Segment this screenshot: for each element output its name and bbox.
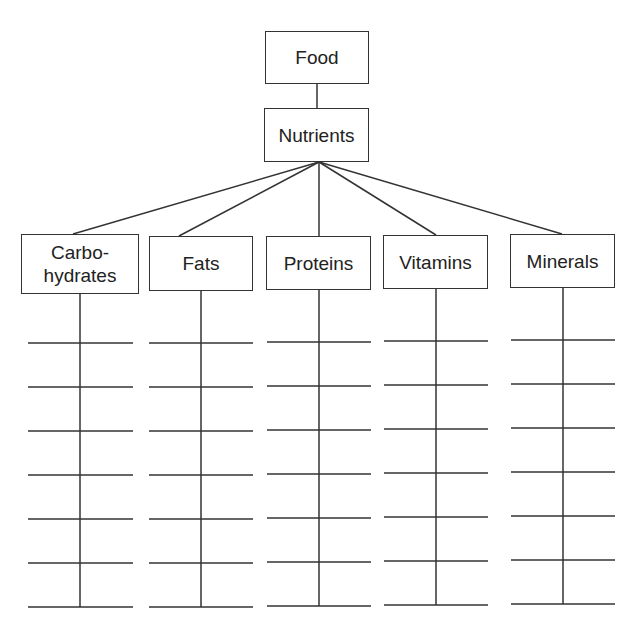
category-label: Proteins xyxy=(284,252,354,275)
nutrients-box: Nutrients xyxy=(264,108,369,162)
nutrients-to-category-connector xyxy=(319,162,562,234)
category-label: Minerals xyxy=(527,250,599,273)
food-label: Food xyxy=(295,46,338,69)
nutrients-to-category-connector xyxy=(73,162,319,234)
category-box-proteins: Proteins xyxy=(266,236,371,290)
category-label: Fats xyxy=(183,252,220,275)
category-box-fats: Fats xyxy=(149,236,253,291)
category-box-minerals: Minerals xyxy=(510,234,615,288)
food-box: Food xyxy=(265,31,369,84)
category-box-vitamins: Vitamins xyxy=(383,235,488,289)
category-box-carbohydrates: Carbo- hydrates xyxy=(21,234,139,294)
category-label: Vitamins xyxy=(399,251,472,274)
category-label: Carbo- hydrates xyxy=(44,241,117,287)
nutrients-label: Nutrients xyxy=(278,124,354,147)
nutrients-to-category-connector xyxy=(319,162,436,235)
connector-lines xyxy=(0,0,631,630)
nutrients-to-category-connector xyxy=(179,162,319,236)
